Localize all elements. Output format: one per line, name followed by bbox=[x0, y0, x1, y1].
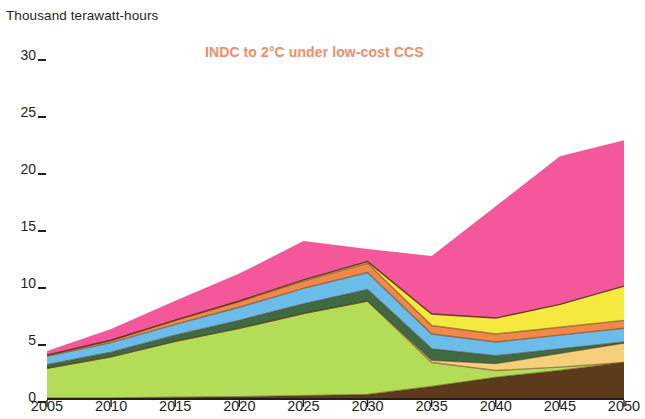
x-axis-tick-label: 2015 bbox=[145, 398, 205, 414]
area-series-group bbox=[47, 140, 624, 399]
y-axis-tick-dash bbox=[38, 59, 46, 61]
y-axis-tick-label: 5 bbox=[2, 332, 36, 348]
x-axis-tick-label: 2035 bbox=[402, 398, 462, 414]
x-axis-tick-label: 2020 bbox=[209, 398, 269, 414]
y-axis-tick-dash bbox=[38, 173, 46, 175]
x-axis-tick-label: 2040 bbox=[466, 398, 526, 414]
y-axis-tick-label: 30 bbox=[2, 47, 36, 63]
y-axis-tick-label: 15 bbox=[2, 218, 36, 234]
x-axis-tick-label: 2005 bbox=[17, 398, 77, 414]
y-axis-tick-dash bbox=[38, 344, 46, 346]
x-axis-tick-label: 2025 bbox=[273, 398, 333, 414]
y-axis-tick-label: 10 bbox=[2, 275, 36, 291]
x-axis-tick-label: 2010 bbox=[81, 398, 141, 414]
x-axis-tick-label: 2030 bbox=[338, 398, 398, 414]
y-axis-tick-label: 25 bbox=[2, 104, 36, 120]
y-axis-tick-dash bbox=[38, 230, 46, 232]
x-axis-tick-label: 2045 bbox=[530, 398, 590, 414]
x-axis-tick-label: 2050 bbox=[594, 398, 645, 414]
y-axis-tick-dash bbox=[38, 287, 46, 289]
y-axis-tick-label: 20 bbox=[2, 161, 36, 177]
y-axis-tick-dash bbox=[38, 116, 46, 118]
